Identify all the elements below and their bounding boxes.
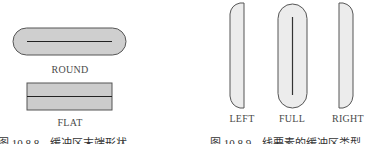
right-figure-caption: 图 10.8.9 线要素的缓冲区类型: [210, 134, 361, 144]
right-buffer-shape: [339, 3, 353, 108]
round-label: ROUND: [50, 64, 90, 75]
left-label: LEFT: [222, 113, 262, 124]
round-buffer-shape: [13, 28, 126, 55]
right-label: RIGHT: [326, 113, 370, 124]
flat-buffer-shape: [27, 83, 112, 110]
left-buffer-shape: [230, 3, 244, 108]
flat-label: FLAT: [50, 117, 90, 128]
full-buffer-shape: [278, 4, 307, 108]
left-figure-caption: 图 10.8.8 缓冲区末端形状: [0, 134, 127, 144]
full-label: FULL: [272, 113, 312, 124]
